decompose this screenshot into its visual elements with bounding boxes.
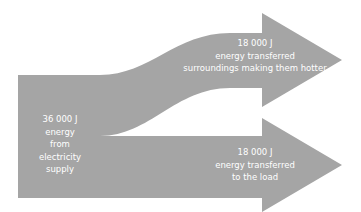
lower-output-label: 18 000 J energy transferred to the load [180,146,330,184]
lower-output-line: to the load [180,171,330,184]
lower-output-line: energy transferred [180,159,330,172]
upper-output-amount: 18 000 J [160,37,350,50]
source-line: from [18,138,102,151]
source-line: energy [18,126,102,139]
source-label: 36 000 J energy from electricity supply [18,113,102,176]
upper-output-line: energy transferred [160,50,350,63]
source-line: supply [18,163,102,176]
lower-output-amount: 18 000 J [180,146,330,159]
energy-flow-diagram: 36 000 J energy from electricity supply … [0,0,361,212]
source-line: electricity [18,151,102,164]
upper-output-line: surroundings making them hotter [160,62,350,75]
source-amount: 36 000 J [18,113,102,126]
upper-output-label: 18 000 J energy transferred surroundings… [160,37,350,75]
